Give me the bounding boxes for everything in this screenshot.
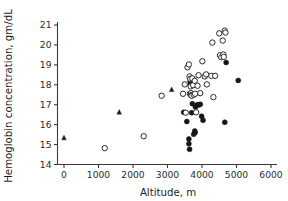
data-point-filled-circle	[184, 119, 189, 124]
data-point-filled-circle	[193, 130, 198, 135]
data-point-open-circle	[210, 40, 215, 45]
data-point-open-circle	[217, 31, 222, 36]
data-point-open-circle	[186, 62, 191, 67]
data-point-filled-circle	[186, 141, 191, 146]
data-point-open-circle	[198, 90, 203, 95]
data-point-filled-circle	[224, 60, 229, 65]
data-point-open-circle	[193, 110, 198, 115]
x-tick-label: 6000	[259, 169, 283, 180]
data-point-open-circle	[192, 78, 197, 83]
data-point-open-circle	[141, 134, 146, 139]
data-point-open-circle	[192, 91, 197, 96]
data-point-open-circle	[221, 54, 226, 59]
data-point-open-circle	[223, 30, 228, 35]
data-point-open-circle	[200, 59, 205, 64]
data-point-open-circle	[203, 72, 208, 77]
x-tick-label: 3000	[156, 169, 180, 180]
y-tick-label: 15	[40, 139, 52, 150]
y-axis-title: Hemoglobin concentration, gm/dL	[3, 9, 14, 183]
data-point-filled-circle	[186, 136, 191, 141]
y-tick-label: 18	[40, 79, 52, 90]
data-point-open-circle	[182, 82, 187, 87]
data-point-filled-circle	[201, 118, 206, 123]
data-point-open-circle	[180, 91, 185, 96]
chart-canvas: Hemoglobin concentration, gm/dL Altitude…	[0, 0, 288, 201]
data-point-open-circle	[212, 73, 217, 78]
x-tick-label: 2000	[121, 169, 145, 180]
x-tick-label: 1000	[87, 169, 111, 180]
y-tick-label: 16	[40, 119, 52, 130]
data-point-open-circle	[196, 73, 201, 78]
data-point-filled-circle	[236, 78, 241, 83]
y-tick-label: 19	[40, 59, 52, 70]
data-point-open-circle	[102, 145, 107, 150]
x-tick-label: 5000	[225, 169, 249, 180]
data-point-open-circle	[220, 38, 225, 43]
data-point-filled-circle	[198, 102, 203, 107]
y-tick-label: 17	[40, 99, 52, 110]
data-point-open-circle	[204, 82, 209, 87]
data-point-open-circle	[183, 110, 188, 115]
y-tick-label: 14	[40, 159, 52, 170]
data-point-open-circle	[159, 93, 164, 98]
x-tick-label: 4000	[190, 169, 214, 180]
data-point-filled-circle	[187, 147, 192, 152]
data-point-filled-circle	[222, 120, 227, 125]
scatter-chart-figure: Hemoglobin concentration, gm/dL Altitude…	[0, 0, 288, 201]
data-point-open-circle	[211, 94, 216, 99]
y-tick-label: 20	[40, 39, 52, 50]
x-tick-label: 0	[61, 169, 67, 180]
y-tick-label: 21	[40, 19, 52, 30]
data-point-open-circle	[195, 83, 200, 88]
x-axis-title: Altitude, m	[140, 187, 196, 198]
